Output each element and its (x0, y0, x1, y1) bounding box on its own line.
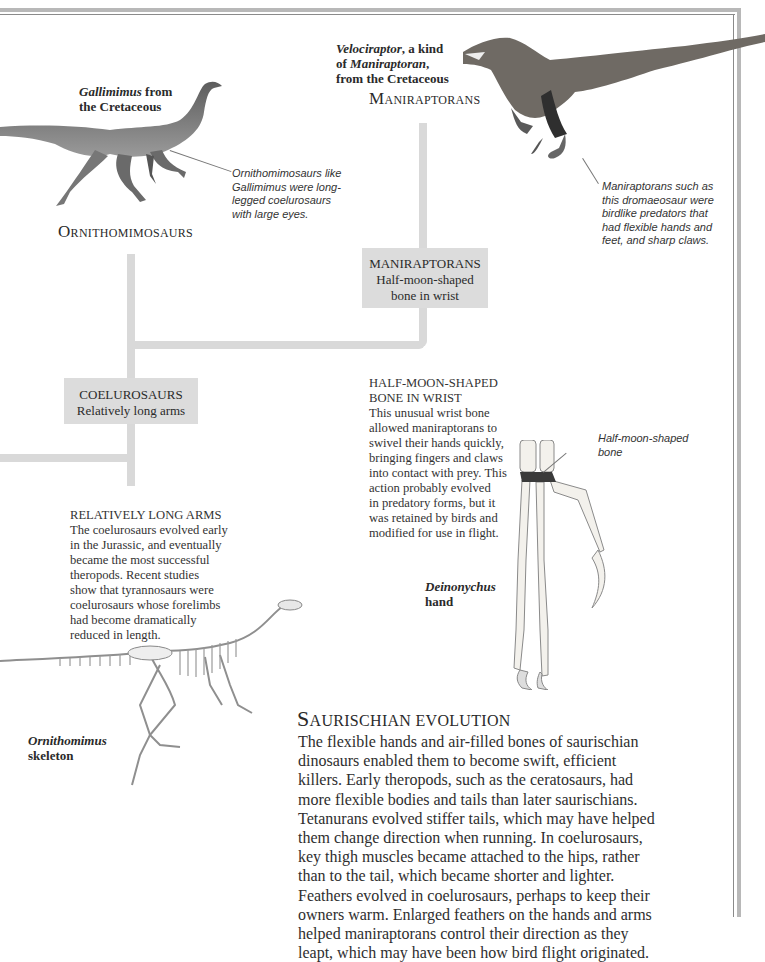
body-line: This unusual wrist bone (369, 406, 544, 421)
label-line: bone (598, 446, 689, 460)
gallimimus-caption-name: Gallimimus (79, 84, 142, 99)
label-line: Half-moon-shaped (598, 432, 689, 446)
long-arms-heading: RELATIVELY LONG ARMS (70, 508, 280, 523)
velociraptor-caption-comma: , (426, 56, 429, 71)
body-line: helped maniraptorans control their direc… (298, 924, 728, 943)
note-line: legged coelurosaurs (232, 194, 341, 208)
body-line: became the most successful (70, 553, 280, 568)
body-line: The flexible hands and air-filled bones … (298, 732, 728, 751)
ornithomimus-caption: Ornithomimus skeleton (28, 733, 107, 763)
velociraptor-caption-of: of (336, 56, 350, 71)
half-moon-heading-line1: HALF-MOON-SHAPED (369, 376, 544, 391)
gallimimus-caption-rest: from (142, 84, 172, 99)
frame-top-border (0, 8, 741, 12)
deinonychus-caption-name: Deinonychus (425, 579, 496, 594)
note-line: feet, and sharp claws. (602, 234, 714, 248)
ornithomimus-caption-bold: skeleton (28, 748, 107, 763)
body-line: than to the tail, which became shorter a… (298, 866, 728, 885)
node-maniraptorans: MANIRAPTORANS Half-moon-shaped bone in w… (362, 248, 488, 308)
velociraptor-caption-name: Velociraptor (336, 41, 402, 56)
note-line: Gallimimus were long- (232, 181, 341, 195)
body-line: theropods. Recent studies (70, 568, 280, 583)
gallimimus-caption: Gallimimus from the Cretaceous (79, 84, 172, 114)
note-line: with large eyes. (232, 208, 341, 222)
node-coelurosaurs-line1: Relatively long arms (64, 403, 198, 419)
velociraptor-caption-group: Maniraptoran (350, 56, 426, 71)
body-line: them change direction when running. In c… (298, 828, 728, 847)
body-line: The coelurosaurs evolved early (70, 523, 280, 538)
note-line: had flexible hands and (602, 221, 714, 235)
body-line: Feathers evolved in coelurosaurs, perhap… (298, 886, 728, 905)
branch-horizontal-connector (127, 341, 425, 349)
note-line: birdlike predators that (602, 207, 714, 221)
node-maniraptorans-line1: Half-moon-shaped (362, 272, 488, 288)
node-coelurosaurs: COELUROSAURS Relatively long arms (64, 378, 198, 424)
maniraptorans-note: Maniraptorans such as this dromaeosaur w… (602, 180, 714, 248)
note-line: Ornithomimosaurs like (232, 167, 341, 181)
ornithomimosaurs-heading: Ornithomimosaurs (58, 222, 193, 242)
ornithomimosaurs-note: Ornithomimosaurs like Gallimimus were lo… (232, 167, 341, 221)
main-heading-rest: AURISCHIAN EVOLUTION (310, 712, 511, 729)
node-maniraptorans-title: MANIRAPTORANS (362, 256, 488, 272)
note-line: Maniraptorans such as (602, 180, 714, 194)
velociraptor-illustration (455, 30, 765, 165)
body-line: more flexible bodies and tails than late… (298, 790, 728, 809)
half-moon-bone-label: Half-moon-shaped bone (598, 432, 689, 459)
gallimimus-caption-line2: the Cretaceous (79, 99, 172, 114)
main-body-text: The flexible hands and air-filled bones … (298, 732, 728, 962)
body-line: allowed maniraptorans to (369, 421, 544, 436)
main-heading: SAURISCHIAN EVOLUTION (297, 706, 511, 732)
note-line: this dromaeosaur were (602, 194, 714, 208)
velociraptor-caption: Velociraptor, a kind of Maniraptoran, fr… (336, 41, 449, 86)
body-line: leapt, which may have been how bird flig… (298, 943, 728, 962)
velociraptor-caption-rest: , a kind (402, 41, 444, 56)
frame-top-rule (0, 14, 735, 15)
body-line: dinosaurs enabled them to become swift, … (298, 751, 728, 770)
body-line: in the Jurassic, and eventually (70, 538, 280, 553)
half-moon-heading-line2: BONE IN WRIST (369, 391, 544, 406)
deinonychus-hand-illustration (508, 440, 628, 690)
node-coelurosaurs-title: COELUROSAURS (64, 387, 198, 403)
body-line: Tetanurans evolved stiffer tails, which … (298, 809, 728, 828)
body-line: killers. Early theropods, such as the ce… (298, 770, 728, 789)
branch-left-outgoing (0, 454, 135, 462)
ornithomimus-skeleton-illustration (0, 595, 320, 795)
main-heading-initial: S (297, 706, 310, 731)
node-maniraptorans-line2: bone in wrist (362, 288, 488, 304)
velociraptor-caption-line3: from the Cretaceous (336, 71, 449, 86)
ornithomimus-caption-name: Ornithomimus (28, 733, 107, 748)
branch-maniraptorans-stem (419, 123, 427, 347)
deinonychus-caption: Deinonychus hand (425, 579, 496, 609)
body-line: owners warm. Enlarged feathers on the ha… (298, 905, 728, 924)
body-line: key thigh muscles became attached to the… (298, 847, 728, 866)
deinonychus-caption-bold: hand (425, 594, 496, 609)
